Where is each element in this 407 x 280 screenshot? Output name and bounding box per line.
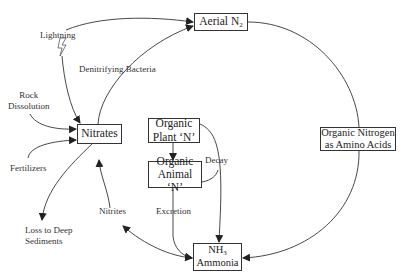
- rock-label-line1: Rock: [8, 90, 50, 101]
- ammonia-label: Ammonia: [197, 257, 239, 269]
- nitrates-node: Nitrates: [77, 124, 122, 144]
- loss-label-line1: Loss to Deep: [25, 225, 73, 236]
- nitrites-label: Nitrites: [99, 206, 126, 217]
- rock-label-line2: Dissolution: [8, 101, 50, 112]
- organic-nitrogen-line2: as Amino Acids: [325, 139, 392, 151]
- organic-animal-node: Organic Animal ‘N’: [148, 161, 202, 188]
- plant-line1: Organic: [156, 117, 193, 130]
- nitrogen-cycle-diagram: Aerial N2 Nitrates Organic Plant ‘N’ Org…: [0, 0, 407, 280]
- aerial-n2-node: Aerial N2: [194, 13, 248, 31]
- ammonia-subscript: 3: [223, 249, 227, 257]
- animal-line1: Organic: [157, 155, 194, 168]
- decay-label: Decay: [205, 155, 228, 166]
- animal-line2: Animal ‘N’: [149, 168, 201, 194]
- denitrifying-bacteria-label: Denitrifying Bacteria: [79, 64, 156, 75]
- organic-nitrogen-node: Organic Nitrogen as Amino Acids: [320, 127, 396, 151]
- ammonia-formula: NH: [208, 244, 223, 255]
- rock-dissolution-label: Rock Dissolution: [8, 90, 50, 112]
- aerial-n2-label: Aerial N: [199, 15, 239, 27]
- nitrates-label: Nitrates: [81, 127, 117, 140]
- plant-line2: Plant ‘N’: [153, 131, 195, 144]
- fertilizers-label: Fertilizers: [10, 163, 47, 174]
- lightning-label: Lightning: [40, 30, 76, 41]
- loss-label-line2: Sediments: [25, 236, 73, 247]
- excretion-label: Excretion: [156, 206, 191, 217]
- organic-nitrogen-line1: Organic Nitrogen: [321, 127, 395, 139]
- aerial-n2-subscript: 2: [239, 21, 243, 29]
- ammonia-node: NH3 Ammonia: [193, 243, 242, 271]
- loss-to-deep-sediments-label: Loss to Deep Sediments: [25, 225, 73, 247]
- organic-plant-node: Organic Plant ‘N’: [148, 118, 200, 143]
